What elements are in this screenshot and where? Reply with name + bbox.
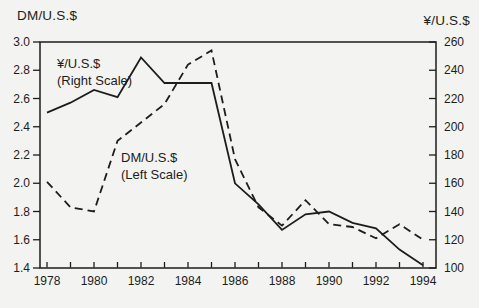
y-axis-right-tick-label: 260: [444, 35, 464, 49]
y-axis-right-tick-label: 220: [444, 92, 464, 106]
annotation-line-2: (Left Scale): [121, 166, 187, 183]
annotation-line-2: (Right Scale): [57, 72, 132, 89]
annotation-line-1: ¥/U.S.$: [57, 55, 132, 72]
y-axis-right-tick-label: 160: [444, 176, 464, 190]
y-axis-left-tick-label: 2.6: [13, 92, 30, 106]
y-axis-left-tick-label: 2.2: [13, 148, 30, 162]
y-axis-right-tick-label: 100: [444, 261, 464, 275]
y-axis-left-tick-label: 1.8: [13, 205, 30, 219]
dm-series-annotation: DM/U.S.$ (Left Scale): [121, 149, 187, 183]
y-axis-left-tick-label: 3.0: [13, 35, 30, 49]
exchange-rate-line-chart: 3.02.82.62.42.22.01.81.61.42602402202001…: [0, 0, 479, 308]
x-axis-tick-label: 1992: [363, 274, 390, 288]
y-axis-left-tick-label: 2.4: [13, 120, 30, 134]
y-axis-left-tick-label: 1.6: [13, 233, 30, 247]
x-axis-tick-label: 1988: [269, 274, 296, 288]
x-axis-tick-label: 1986: [222, 274, 249, 288]
x-axis-tick-label: 1994: [410, 274, 437, 288]
x-axis-tick-label: 1990: [316, 274, 343, 288]
y-axis-left-tick-label: 2.0: [13, 176, 30, 190]
y-axis-right-tick-label: 140: [444, 205, 464, 219]
y-axis-right-tick-label: 120: [444, 233, 464, 247]
annotation-line-1: DM/U.S.$: [121, 149, 187, 166]
y-axis-right-tick-label: 240: [444, 63, 464, 77]
x-axis-tick-label: 1980: [81, 274, 108, 288]
y-axis-right-tick-label: 180: [444, 148, 464, 162]
yen-series-annotation: ¥/U.S.$ (Right Scale): [57, 55, 132, 89]
y-axis-right-tick-label: 200: [444, 120, 464, 134]
y-axis-left-tick-label: 1.4: [13, 261, 30, 275]
scanned-exchange-rate-figure: DM/U.S.$ ¥/U.S.$ 3.02.82.62.42.22.01.81.…: [0, 0, 479, 308]
x-axis-tick-label: 1982: [128, 274, 155, 288]
y-axis-left-tick-label: 2.8: [13, 63, 30, 77]
x-axis-tick-label: 1984: [175, 274, 202, 288]
x-axis-tick-label: 1978: [34, 274, 61, 288]
